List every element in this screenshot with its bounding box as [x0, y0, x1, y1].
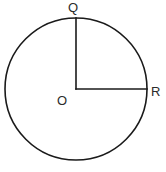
- geometry-canvas: [0, 0, 166, 172]
- point-label-q: Q: [68, 1, 78, 14]
- point-label-r: R: [151, 85, 160, 98]
- geometry-figure: Q O R: [0, 0, 166, 172]
- point-label-o: O: [57, 94, 67, 107]
